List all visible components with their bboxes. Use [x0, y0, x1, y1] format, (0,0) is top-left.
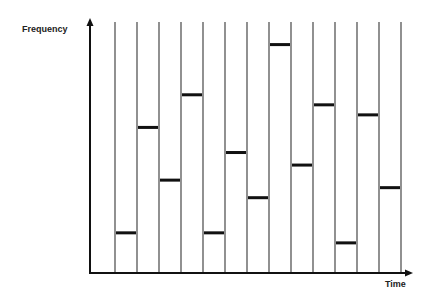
frequency-bar [182, 93, 202, 96]
frequency-bar [160, 179, 180, 182]
frequency-hopping-chart [0, 0, 429, 300]
frequency-bar [138, 126, 158, 129]
frequency-bar [336, 241, 356, 244]
y-axis-arrow-icon [87, 18, 94, 26]
frequency-bar [116, 231, 136, 234]
frequency-bar [248, 196, 268, 199]
x-axis-arrow-icon [405, 270, 413, 277]
y-axis-label: Frequency [22, 24, 68, 34]
axes [87, 18, 414, 277]
frequency-bar [204, 231, 224, 234]
time-slot-dividers [115, 22, 401, 273]
frequency-bar [270, 43, 290, 46]
frequency-bar [314, 103, 334, 106]
frequency-bar [292, 164, 312, 167]
frequency-bar [380, 186, 400, 189]
x-axis-label: Time [385, 279, 406, 289]
frequency-bar [358, 113, 378, 116]
frequency-bar [226, 151, 246, 154]
